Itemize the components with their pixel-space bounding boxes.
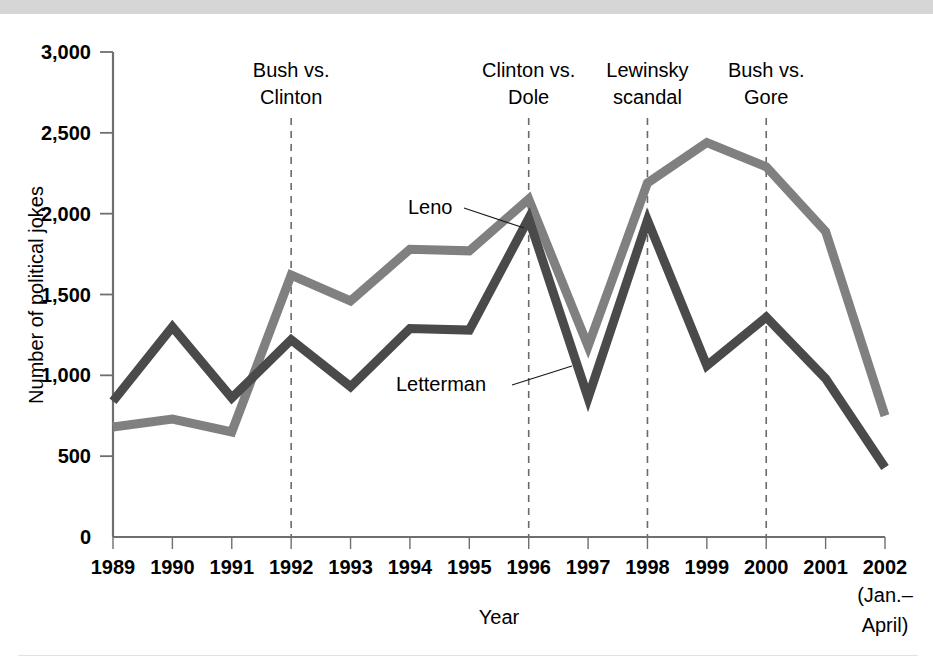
x-tick-label: 1990 — [150, 556, 195, 578]
x-axis-sublabel-line1: (Jan.– — [857, 584, 913, 606]
event-label-line2: Gore — [744, 86, 788, 108]
x-axis-sublabel-line2: April) — [862, 614, 909, 636]
x-axis: 1989199019911992199319941995199619971998… — [91, 537, 914, 636]
x-tick-label: 1989 — [91, 556, 136, 578]
y-tick-label: 500 — [58, 445, 91, 467]
event-label-line1: Clinton vs. — [482, 59, 575, 81]
x-tick-label: 1994 — [388, 556, 433, 578]
event-label-line2: Clinton — [260, 86, 322, 108]
y-tick-label: 2,000 — [41, 203, 91, 225]
y-tick-label: 2,500 — [41, 122, 91, 144]
event-marker-labels: Bush vs.ClintonClinton vs.DoleLewinskysc… — [253, 59, 805, 108]
x-tick-label: 1995 — [447, 556, 492, 578]
x-tick-label: 1991 — [210, 556, 255, 578]
y-tick-labels: 05001,0001,5002,0002,5003,000 — [41, 41, 91, 548]
series-label-letterman: Letterman — [396, 373, 486, 395]
x-tick-label: 1996 — [506, 556, 551, 578]
y-tick-label: 1,000 — [41, 364, 91, 386]
x-tick-label: 2000 — [744, 556, 789, 578]
x-tick-label: 1993 — [328, 556, 373, 578]
y-axis: 05001,0001,5002,0002,5003,000 — [41, 41, 113, 548]
x-axis-title: Year — [479, 606, 520, 628]
event-label-line1: Bush vs. — [253, 59, 330, 81]
x-tick-marks — [113, 537, 885, 549]
event-label-line1: Lewinsky — [606, 59, 688, 81]
x-tick-label: 2002 — [863, 556, 908, 578]
event-label-line2: Dole — [508, 86, 549, 108]
y-tick-label: 0 — [80, 526, 91, 548]
x-tick-labels: 1989199019911992199319941995199619971998… — [91, 556, 908, 578]
event-label-line2: scandal — [613, 86, 682, 108]
x-tick-label: 1999 — [685, 556, 730, 578]
data-series-group — [113, 143, 885, 468]
series-label-leno: Leno — [408, 196, 453, 218]
event-label-line1: Bush vs. — [728, 59, 805, 81]
leader-line-letterman — [512, 366, 572, 385]
y-tick-label: 1,500 — [41, 284, 91, 306]
x-tick-label: 1992 — [269, 556, 314, 578]
chart-figure: Number of political jokes 05001,0001,500… — [0, 0, 933, 668]
line-chart-plot: Number of political jokes 05001,0001,500… — [0, 0, 933, 668]
y-tick-label: 3,000 — [41, 41, 91, 63]
x-tick-label: 1998 — [625, 556, 670, 578]
y-tick-marks — [100, 52, 113, 456]
x-tick-label: 2001 — [803, 556, 848, 578]
x-tick-label: 1997 — [566, 556, 611, 578]
